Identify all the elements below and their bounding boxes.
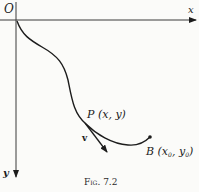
y-axis-label: y <box>3 168 9 178</box>
point-b-dot <box>148 135 152 139</box>
point-p-label: P (x, y) <box>87 109 126 120</box>
point-b-label: B (x0, y0) <box>146 146 193 158</box>
origin-label: O <box>4 3 14 15</box>
diagram-canvas <box>0 0 199 192</box>
x-axis-label: x <box>188 5 194 15</box>
velocity-label: v <box>82 134 87 143</box>
figure-7-2: O x y P (x, y) v B (x0, y0) Fig. 7.2 <box>0 0 199 192</box>
figure-caption: Fig. 7.2 <box>84 178 117 187</box>
trajectory-curve <box>17 21 150 145</box>
